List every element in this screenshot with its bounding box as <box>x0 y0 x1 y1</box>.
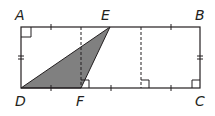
right-angle-mark-c <box>192 80 200 88</box>
label-e: E <box>101 7 110 23</box>
label-b: B <box>195 7 205 23</box>
label-c: C <box>195 93 205 109</box>
right-angle-mark-a <box>21 27 31 37</box>
right-angle-mark-dashed-foot <box>141 80 149 88</box>
label-f: F <box>76 93 85 109</box>
geometry-diagram: A E B D F C <box>0 0 215 116</box>
shaded-triangle-def <box>21 27 110 88</box>
label-a: A <box>14 7 25 23</box>
label-d: D <box>15 93 26 109</box>
